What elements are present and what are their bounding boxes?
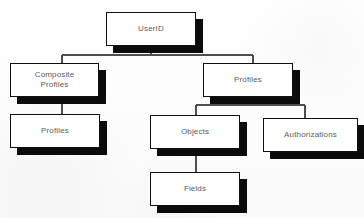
node-label-authorizations: Authorizations <box>284 130 337 140</box>
node-fields[interactable]: Fields <box>150 172 240 206</box>
node-profiles-right[interactable]: Profiles <box>203 63 293 97</box>
node-label-composite-profiles: Composite Profiles <box>35 70 75 90</box>
node-userid[interactable]: UserID <box>106 12 196 46</box>
node-profiles-left[interactable]: Profiles <box>10 114 100 148</box>
node-label-profiles-right: Profiles <box>234 75 262 85</box>
node-objects[interactable]: Objects <box>150 115 240 149</box>
node-label-fields: Fields <box>184 184 206 194</box>
node-label-objects: Objects <box>181 127 209 137</box>
node-composite-profiles[interactable]: Composite Profiles <box>10 63 99 97</box>
diagram-canvas: UserIDComposite ProfilesProfilesProfiles… <box>0 0 364 218</box>
node-authorizations[interactable]: Authorizations <box>263 118 358 152</box>
node-label-userid: UserID <box>138 24 164 34</box>
node-label-profiles-left: Profiles <box>41 126 69 136</box>
